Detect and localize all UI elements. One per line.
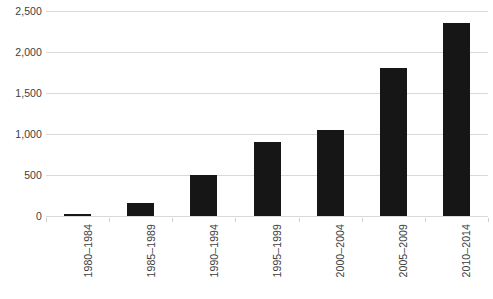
bar (380, 68, 407, 216)
gridline (46, 216, 488, 217)
x-axis-tick-mark (488, 218, 489, 222)
y-axis-tick-label: 2,000 (2, 47, 42, 58)
x-axis-tick-mark (299, 218, 300, 222)
x-axis-tick-mark (172, 218, 173, 222)
x-axis-tick-mark (109, 218, 110, 222)
x-axis-tick-label: 1980–1984 (83, 224, 94, 277)
y-axis-tick-labels: 05001,0001,5002,0002,500 (0, 11, 42, 216)
y-axis-tick-label: 1,500 (2, 88, 42, 99)
x-axis-tick-label: 1995–1999 (272, 224, 283, 277)
x-axis-tick-labels: 1980–19841985–19891990–19941995–19992000… (46, 218, 488, 299)
bar-chart: 05001,0001,5002,0002,500 1980–19841985–1… (0, 0, 493, 299)
y-axis-tick-label: 2,500 (2, 6, 42, 17)
bar (190, 175, 217, 216)
y-axis-tick-label: 1,000 (2, 129, 42, 140)
x-axis-tick-mark (425, 218, 426, 222)
x-axis-tick-label: 1985–1989 (146, 224, 157, 277)
y-axis-tick-label: 500 (2, 170, 42, 181)
bar (254, 142, 281, 216)
x-axis-tick-mark (235, 218, 236, 222)
bars-layer (46, 11, 488, 216)
x-axis-tick-label: 2010–2014 (461, 224, 472, 277)
bar (127, 203, 154, 216)
bar (443, 23, 470, 216)
x-axis-tick-mark (362, 218, 363, 222)
x-axis-tick-label: 2005–2009 (398, 224, 409, 277)
y-axis-tick-label: 0 (2, 211, 42, 222)
x-axis-tick-mark (46, 218, 47, 222)
bar (64, 214, 91, 216)
x-axis-tick-label: 1990–1994 (209, 224, 220, 277)
bar (317, 130, 344, 216)
x-axis-tick-label: 2000–2004 (335, 224, 346, 277)
